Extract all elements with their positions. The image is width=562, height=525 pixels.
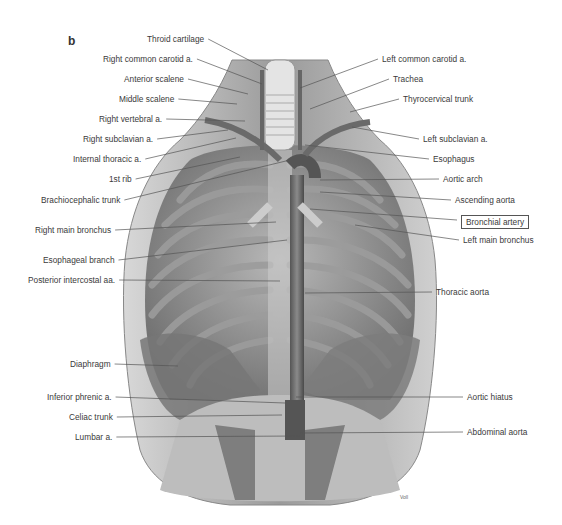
label-left-main-bronchus: Left main bronchus — [463, 235, 534, 245]
label-esophagus: Esophagus — [433, 154, 475, 164]
label-left-common-carotid: Left common carotid a. — [382, 54, 466, 64]
label-internal-thoracic: Internal thoracic a. — [73, 154, 141, 164]
label-posterior-intercostal: Posterior intercostal aa. — [28, 275, 115, 285]
label-inferior-phrenic: Inferior phrenic a. — [47, 392, 112, 402]
label-left-subclavian: Left subclavian a. — [423, 134, 488, 144]
label-middle-scalene: Middle scalene — [119, 94, 174, 104]
leader-thyrocervical-trunk — [350, 99, 399, 112]
panel-letter: b — [68, 34, 75, 48]
label-thoracic-aorta: Thoracic aorta — [436, 287, 489, 297]
label-thyrocervical-trunk: Thyrocervical trunk — [403, 94, 473, 104]
label-throid-cartilage: Throid cartilage — [147, 34, 204, 44]
label-ascending-aorta: Ascending aorta — [455, 195, 515, 205]
label-right-common-carotid: Right common carotid a. — [103, 54, 193, 64]
label-right-main-bronchus: Right main bronchus — [35, 225, 111, 235]
label-brachiocephalic-trunk: Brachiocephalic trunk — [41, 195, 120, 205]
label-trachea: Trachea — [393, 74, 423, 84]
label-celiac-trunk: Celiac trunk — [69, 412, 113, 422]
label-right-subclavian: Right subclavian a. — [83, 134, 153, 144]
label-lumbar-a: Lumbar a. — [75, 432, 112, 442]
illustrator-signature: Voll — [400, 494, 408, 500]
label-right-vertebral: Right vertebral a. — [99, 114, 162, 124]
label-anterior-scalene: Anterior scalene — [124, 74, 184, 84]
label-aortic-hiatus: Aortic hiatus — [467, 392, 513, 402]
label-aortic-arch: Aortic arch — [443, 174, 483, 184]
label-abdominal-aorta: Abdominal aorta — [467, 427, 527, 437]
label-esophageal-branch: Esophageal branch — [43, 255, 115, 265]
label-diaphragm: Diaphragm — [70, 359, 111, 369]
label-bronchial-artery: Bronchial artery — [461, 215, 529, 229]
anatomy-figure: b Throid cartilageRight common carotid a… — [0, 0, 562, 525]
label-first-rib: 1st rib — [109, 174, 132, 184]
